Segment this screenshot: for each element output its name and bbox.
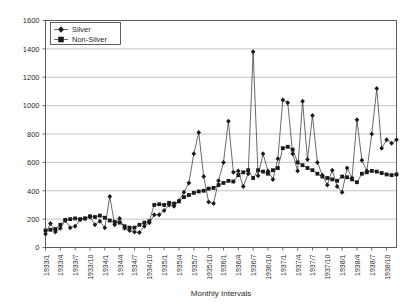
x-tick-label: 1935/4	[176, 254, 183, 276]
data-point	[365, 170, 369, 174]
data-point	[167, 201, 171, 205]
data-point	[330, 178, 334, 182]
data-point	[177, 199, 181, 203]
y-tick-label: 400	[27, 187, 40, 196]
data-point	[296, 160, 300, 164]
data-point	[285, 100, 290, 105]
x-tick-label: 1933/7	[72, 254, 79, 276]
data-point	[48, 221, 53, 226]
data-point	[216, 178, 221, 183]
data-point	[355, 180, 359, 184]
data-point	[231, 180, 235, 184]
data-point	[49, 228, 53, 232]
chart-container: 02004006008001000120014001600 1933/11933…	[0, 0, 413, 307]
data-point	[300, 99, 305, 104]
data-point	[394, 137, 399, 142]
data-point	[172, 202, 176, 206]
data-point	[98, 214, 102, 218]
data-point	[133, 226, 137, 230]
data-point	[108, 219, 112, 223]
data-point	[281, 97, 286, 102]
data-point	[271, 177, 276, 182]
square-icon	[58, 37, 64, 43]
data-point	[330, 168, 335, 173]
gridlines-group	[46, 49, 397, 219]
data-point	[221, 160, 226, 165]
x-tick-label: 1938/10	[384, 254, 391, 279]
x-tick-label: 1934/7	[131, 254, 138, 276]
x-tick-label: 1937/4	[295, 254, 302, 276]
data-point	[384, 137, 389, 142]
data-point	[306, 166, 310, 170]
data-point	[236, 173, 240, 177]
data-point	[380, 171, 384, 175]
data-point	[286, 145, 290, 149]
data-point	[44, 229, 48, 233]
data-point	[316, 172, 320, 176]
x-tick-label: 1936/10	[265, 254, 272, 279]
data-point	[58, 223, 62, 227]
data-point	[315, 160, 320, 165]
data-point	[73, 217, 77, 221]
x-tick-label: 1935/7	[191, 254, 198, 276]
legend-label-non-silver: Non-Silver	[72, 35, 108, 44]
data-point	[360, 172, 364, 176]
y-tick-label: 800	[27, 130, 40, 139]
data-point	[197, 190, 201, 194]
data-point	[142, 221, 146, 225]
x-tick-label: 1933/10	[87, 254, 94, 279]
data-point	[389, 141, 394, 146]
x-tick-label: 1938/1	[339, 254, 346, 276]
data-point	[305, 157, 310, 162]
data-point	[206, 200, 211, 205]
x-axis-title: Monthly Intervals	[191, 289, 251, 298]
data-point	[345, 166, 350, 171]
data-point	[325, 176, 329, 180]
data-point	[226, 119, 231, 124]
data-point	[236, 168, 241, 173]
y-tick-label: 1200	[23, 73, 40, 82]
data-point	[202, 189, 206, 193]
x-tick-label: 1938/4	[354, 254, 361, 276]
data-point	[256, 168, 260, 172]
data-point	[138, 223, 142, 227]
data-point	[132, 229, 137, 234]
data-point	[118, 221, 122, 225]
data-point	[217, 183, 221, 187]
data-point	[276, 166, 280, 170]
data-point	[103, 216, 107, 220]
data-point	[231, 170, 236, 175]
x-tick-label: 1936/4	[235, 254, 242, 276]
y-tick-label: 1400	[23, 45, 40, 54]
data-point	[196, 130, 201, 135]
data-point	[375, 170, 379, 174]
data-point	[53, 227, 57, 231]
data-point	[113, 220, 117, 224]
ytick-labels-group: 02004006008001000120014001600	[23, 16, 40, 252]
series-line	[46, 52, 397, 234]
x-tick-label: 1933/1	[43, 254, 50, 276]
data-point	[212, 186, 216, 190]
data-point	[241, 170, 245, 174]
line-chart: 02004006008001000120014001600 1933/11933…	[0, 0, 413, 307]
data-point	[325, 183, 330, 188]
y-tick-label: 0	[35, 243, 39, 252]
data-point	[311, 168, 315, 172]
y-tick-label: 600	[27, 158, 40, 167]
data-point	[128, 226, 132, 230]
data-point	[107, 194, 112, 199]
data-point	[340, 175, 344, 179]
data-point	[162, 203, 166, 207]
data-point	[374, 86, 379, 91]
series-line	[46, 147, 397, 231]
data-point	[63, 218, 67, 222]
data-point	[395, 173, 399, 177]
data-point	[320, 175, 324, 179]
data-point	[83, 217, 87, 221]
data-point	[207, 187, 211, 191]
data-point	[251, 49, 256, 54]
data-point	[310, 113, 315, 118]
data-point	[192, 151, 197, 156]
x-tick-label: 1937/7	[309, 254, 316, 276]
x-tick-label: 1935/10	[206, 254, 213, 279]
